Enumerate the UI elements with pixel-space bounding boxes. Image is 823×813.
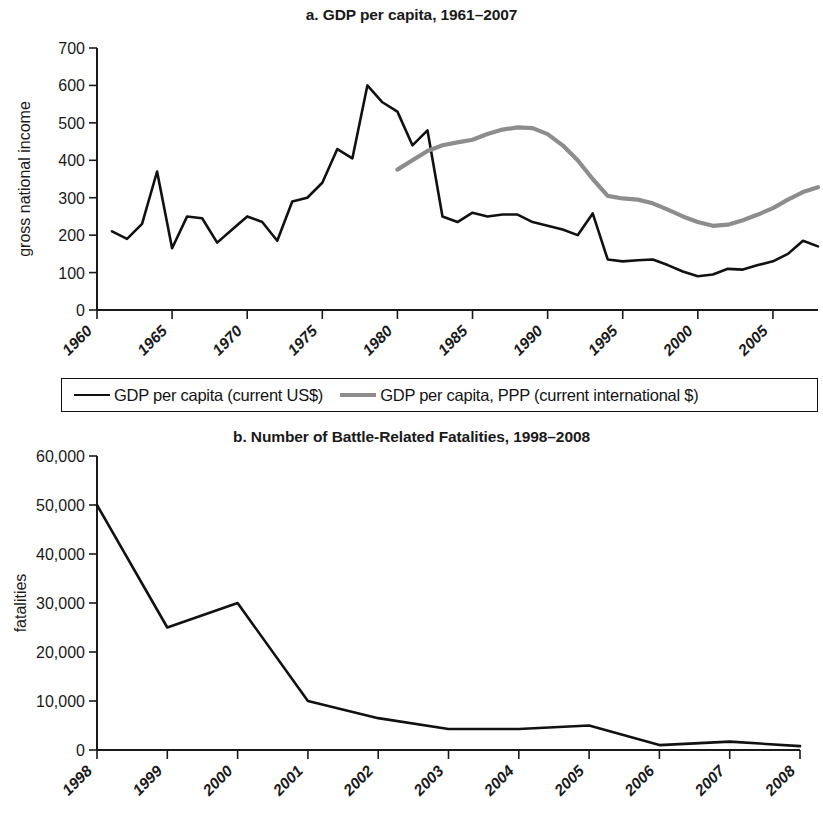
two-panel-line-chart-figure: a. GDP per capita, 1961–2007 01002003004…: [0, 0, 823, 813]
panel-b-x-tick-label: 2000: [199, 762, 236, 799]
panel-b-y-tick-label: 20,000: [36, 644, 85, 661]
panel-b-battle-fatalities: b. Number of Battle-Related Fatalities, …: [0, 420, 823, 813]
series-line-gdp-current-usd: [112, 85, 818, 276]
legend-item-gdp-ppp: GDP per capita, PPP (current internation…: [340, 386, 698, 405]
panel-b-x-tick-label: 2008: [761, 762, 798, 799]
panel-b-x-tick-label: 1998: [59, 762, 96, 799]
legend-item-gdp-current-usd: GDP per capita (current US$): [74, 386, 323, 405]
panel-a-y-tick-label: 500: [58, 115, 85, 132]
panel-a-y-tick-label: 100: [58, 265, 85, 282]
legend-line-swatch-gray: [340, 393, 376, 397]
panel-a-x-tick-label: 1960: [59, 322, 96, 359]
panel-a-y-tick-label: 200: [58, 227, 85, 244]
panel-b-plot: 010,00020,00030,00040,00050,00060,000199…: [0, 420, 823, 813]
panel-b-x-tick-label: 2004: [480, 762, 517, 799]
panel-b-x-tick-label: 2002: [339, 762, 376, 799]
panel-a-y-tick-label: 300: [58, 190, 85, 207]
panel-a-x-tick-label: 2000: [659, 322, 696, 359]
panel-a-x-tick-label: 1980: [359, 322, 396, 359]
panel-b-y-tick-label: 30,000: [36, 595, 85, 612]
panel-a-x-tick-label: 2005: [734, 322, 771, 359]
panel-a-y-tick-label: 700: [58, 40, 85, 57]
panel-a-y-tick-label: 400: [58, 152, 85, 169]
panel-b-y-tick-label: 50,000: [36, 497, 85, 514]
panel-b-y-tick-label: 60,000: [36, 448, 85, 465]
panel-a-y-axis-title: gross national income: [16, 101, 33, 257]
panel-a-x-tick-label: 1965: [134, 322, 171, 359]
panel-b-x-tick-label: 2006: [620, 762, 657, 799]
legend-label-gdp-current-usd: GDP per capita (current US$): [114, 386, 323, 405]
legend-label-gdp-ppp: GDP per capita, PPP (current internation…: [380, 386, 698, 405]
legend-line-swatch-black: [74, 394, 110, 396]
legend: GDP per capita (current US$) GDP per cap…: [61, 378, 818, 412]
panel-a-y-tick-label: 0: [76, 302, 85, 319]
panel-b-x-tick-label: 1999: [129, 762, 166, 799]
panel-a-y-tick-label: 600: [58, 77, 85, 94]
panel-a-gdp-per-capita: a. GDP per capita, 1961–2007 01002003004…: [0, 0, 823, 420]
panel-b-y-tick-label: 40,000: [36, 546, 85, 563]
panel-b-x-tick-label: 2007: [691, 761, 729, 799]
panel-a-x-tick-label: 1975: [284, 322, 321, 359]
series-line-fatalities: [97, 505, 800, 746]
panel-b-y-tick-label: 0: [76, 742, 85, 759]
panel-b-y-tick-label: 10,000: [36, 693, 85, 710]
series-line-gdp-ppp: [397, 127, 818, 225]
panel-a-x-tick-label: 1990: [509, 322, 546, 359]
panel-a-x-tick-label: 1995: [584, 322, 621, 359]
panel-a-plot: 0100200300400500600700196019651970197519…: [0, 0, 823, 378]
panel-b-x-tick-label: 2001: [269, 762, 306, 799]
panel-a-x-tick-label: 1970: [209, 322, 246, 359]
panel-b-y-axis-title: fatalities: [12, 574, 29, 633]
panel-a-x-tick-label: 1985: [434, 322, 471, 359]
panel-b-x-tick-label: 2003: [410, 762, 447, 799]
panel-b-x-tick-label: 2005: [550, 762, 587, 799]
